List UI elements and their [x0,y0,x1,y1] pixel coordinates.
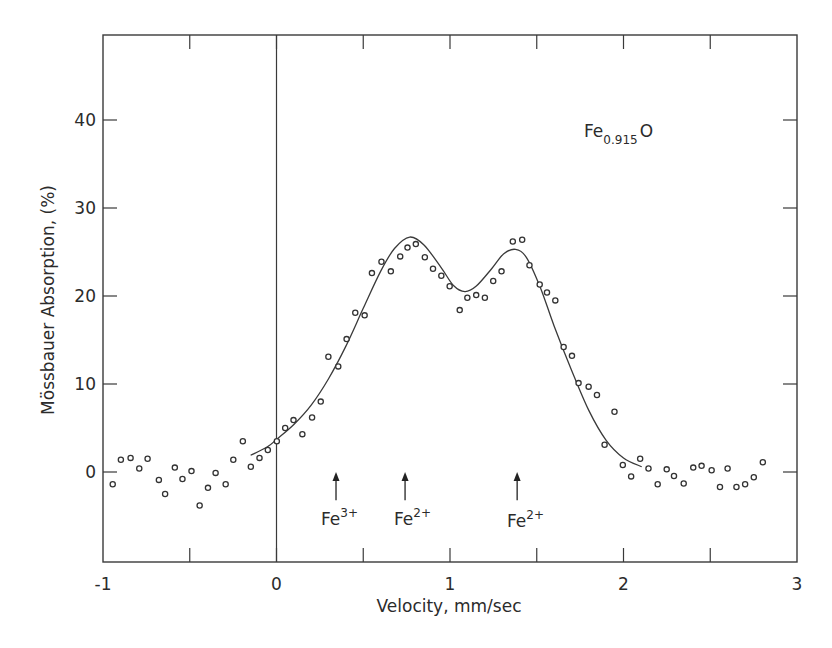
peak-arrows [333,472,521,500]
y-axis-title: Mössbauer Absorption, (%) [38,185,58,415]
data-point [709,468,714,473]
data-point [576,381,581,386]
data-point [602,442,607,447]
data-point [336,364,341,369]
data-point [398,254,403,259]
data-point [629,474,634,479]
data-point [231,457,236,462]
x-tick-label: -1 [95,574,112,594]
data-point [213,470,218,475]
fit-curve-path [251,237,642,467]
ion-label-base: Fe [321,509,340,529]
data-point [379,259,384,264]
data-point [553,298,558,303]
data-point [430,266,435,271]
data-point [163,491,168,496]
data-point [734,484,739,489]
x-tick-label: 3 [792,574,803,594]
data-point [447,284,452,289]
y-tick-label: 10 [74,374,96,394]
data-point [291,417,296,422]
data-point [594,392,599,397]
data-point [300,432,305,437]
y-tick-label: 30 [74,198,96,218]
data-point [620,462,625,467]
compound-subscript: 0.915 [603,133,637,147]
y-tick-label: 20 [74,286,96,306]
ion-label-fe2-a: Fe2+ [394,506,431,529]
compound-annotation: Fe0.915O [584,121,653,147]
data-point [638,456,643,461]
data-point [646,466,651,471]
data-point [527,263,532,268]
data-point [388,269,393,274]
data-point [465,295,470,300]
data-point [751,475,756,480]
arrow-up-icon [402,472,409,481]
data-point [457,307,462,312]
axis-tick-labels: -10123010203040 [74,110,802,594]
data-point [499,269,504,274]
data-point [491,278,496,283]
data-point [561,344,566,349]
data-point [223,482,228,487]
data-point [439,273,444,278]
data-point [699,463,704,468]
data-point [717,484,722,489]
data-point [118,457,123,462]
data-point [413,241,418,246]
data-point [691,465,696,470]
data-point [474,293,479,298]
arrow-up-icon [514,472,521,481]
data-point [309,415,314,420]
data-point [569,353,574,358]
data-point [353,310,358,315]
data-point [137,466,142,471]
ion-label-sup: 2+ [526,508,544,522]
data-point [257,455,262,460]
data-point [544,290,549,295]
data-point [240,439,245,444]
data-point [197,503,202,508]
data-point [110,482,115,487]
y-tick-label: 0 [85,462,96,482]
data-point [510,239,515,244]
data-point [760,460,765,465]
data-point [189,469,194,474]
plot-frame [103,35,797,562]
x-tick-label: 1 [445,574,456,594]
data-point [655,482,660,487]
mossbauer-chart: -10123010203040 Velocity, mm/sec Mössbau… [0,0,832,648]
compound-base: Fe [584,121,603,141]
data-point [725,466,730,471]
data-point [318,399,323,404]
ion-label-sup: 2+ [413,506,431,520]
compound-suffix: O [640,121,653,141]
data-point [369,271,374,276]
data-point [520,237,525,242]
y-tick-label: 40 [74,110,96,130]
x-tick-label: 0 [271,574,282,594]
data-point [743,482,748,487]
ion-label-fe3: Fe3+ [321,506,358,529]
data-points [110,237,765,508]
data-point [664,467,669,472]
data-point [537,282,542,287]
data-point [422,255,427,260]
axis-ticks [103,35,797,562]
data-point [586,384,591,389]
x-tick-label: 2 [618,574,629,594]
data-point [362,313,367,318]
data-point [265,447,270,452]
data-point [128,455,133,460]
plot-border [103,35,797,562]
data-point [156,477,161,482]
ion-label-base: Fe [507,511,526,531]
x-axis-title: Velocity, mm/sec [376,596,521,616]
fitted-curve [251,237,642,467]
data-point [344,337,349,342]
data-point [283,425,288,430]
data-point [671,473,676,478]
ion-label-fe2-b: Fe2+ [507,508,544,531]
data-point [145,456,150,461]
